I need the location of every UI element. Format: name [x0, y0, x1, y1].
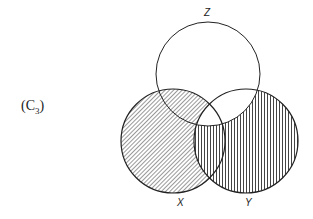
- panel-label-close: ): [40, 98, 45, 113]
- set-label-x: X: [177, 197, 184, 208]
- set-label-y: Y: [245, 197, 252, 208]
- set-label-z: Z: [204, 7, 210, 18]
- panel-label: (C3): [21, 98, 44, 116]
- panel-label-text: (C: [21, 98, 35, 113]
- venn-diagram: [0, 0, 313, 219]
